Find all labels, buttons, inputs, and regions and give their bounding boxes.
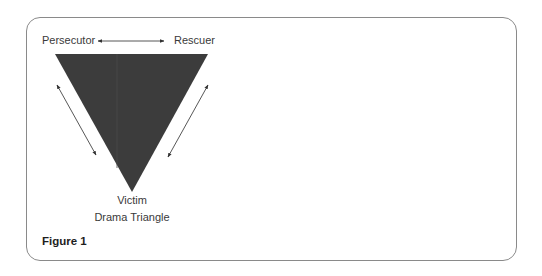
node-label-rescuer: Rescuer xyxy=(174,35,215,46)
figure-number-label: Figure 1 xyxy=(42,236,87,248)
node-label-persecutor: Persecutor xyxy=(42,35,95,46)
node-label-victim: Victim xyxy=(117,195,147,206)
diagram-caption: Drama Triangle xyxy=(94,212,169,223)
